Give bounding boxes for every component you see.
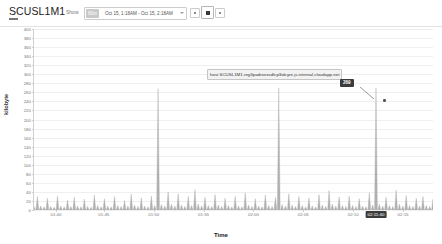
x-axis-tick-mark bbox=[303, 210, 304, 212]
chart-plot-area[interactable]: 0204060801001201401601802002202402602803… bbox=[33, 29, 433, 211]
y-axis-tick-label: 180 bbox=[24, 129, 31, 130]
x-axis-tick-label: 02:05 bbox=[298, 212, 309, 217]
x-axis-tick-label: 01:40 bbox=[50, 212, 61, 217]
y-axis-tick-label: 240 bbox=[24, 101, 31, 102]
time-range-select[interactable]: 60m Oct 15, 1:18AM - Oct 15, 2:18AM bbox=[84, 7, 187, 20]
series-area bbox=[34, 29, 433, 210]
hover-point-marker bbox=[383, 99, 386, 102]
x-axis-tick-mark bbox=[253, 210, 254, 212]
y-axis-tick-label: 0 bbox=[29, 210, 31, 211]
chevron-down-icon bbox=[180, 12, 184, 14]
series-path bbox=[34, 88, 433, 210]
tooltip-value-badge: 269 bbox=[340, 79, 354, 87]
y-axis-tick-label: 360 bbox=[24, 47, 31, 48]
y-axis-tick-label: 200 bbox=[24, 120, 31, 121]
y-axis-tick-label: 400 bbox=[24, 29, 31, 30]
page-title: SCUSL1M1 bbox=[9, 5, 65, 17]
y-axis-tick-label: 380 bbox=[24, 38, 31, 39]
toolbar: SCUSL1M1 Show 60m Oct 15, 1:18AM - Oct 1… bbox=[0, 0, 442, 27]
title-underline bbox=[9, 18, 18, 20]
y-axis-tick-label: 300 bbox=[24, 74, 31, 75]
y-axis-tick-label: 80 bbox=[26, 174, 31, 175]
plus-icon bbox=[219, 12, 221, 14]
x-axis-tick-mark bbox=[154, 210, 155, 212]
y-axis-tick-label: 120 bbox=[24, 156, 31, 157]
x-axis-tick-mark bbox=[353, 210, 354, 212]
series-tooltip: host.SCUSL1M1.reg3padroexsdlcp3idcyre.js… bbox=[207, 69, 342, 80]
x-axis-tick-label: 01:55 bbox=[198, 212, 209, 217]
y-axis-tick-label: 100 bbox=[24, 165, 31, 166]
reset-zoom-button[interactable] bbox=[201, 6, 214, 19]
y-axis-tick-label: 160 bbox=[24, 138, 31, 139]
x-axis-tick-label: 02:15 bbox=[398, 212, 409, 217]
y-axis-tick-label: 140 bbox=[24, 147, 31, 148]
range-text: Oct 15, 1:18AM - Oct 15, 2:18AM bbox=[105, 9, 173, 18]
y-axis-tick-label: 340 bbox=[24, 56, 31, 57]
range-duration-badge: 60m bbox=[86, 9, 99, 18]
y-axis-tick-label: 220 bbox=[24, 110, 31, 111]
y-axis-tick-label: 320 bbox=[24, 65, 31, 66]
y-axis-tick-label: 260 bbox=[24, 92, 31, 93]
y-axis-tick-label: 280 bbox=[24, 83, 31, 84]
y-axis-tick-label: 40 bbox=[26, 192, 31, 193]
tooltip-leader-line bbox=[360, 87, 384, 101]
show-label: Show bbox=[66, 9, 79, 15]
minus-icon bbox=[194, 12, 196, 14]
x-axis-tick-label: 02:00 bbox=[248, 212, 259, 217]
x-axis-label: Time bbox=[0, 232, 442, 238]
x-axis-tick-label: 01:45 bbox=[98, 212, 109, 217]
x-axis-tick-label: 01:50 bbox=[148, 212, 159, 217]
x-axis-tick-mark bbox=[56, 210, 57, 212]
y-axis-tick-label: 60 bbox=[26, 183, 31, 184]
zoom-in-button[interactable] bbox=[215, 8, 225, 18]
y-axis-label-wrap: kilobyte bbox=[4, 29, 14, 210]
x-axis-tick-mark bbox=[403, 210, 404, 212]
x-axis-tick-label: 02:10 bbox=[348, 212, 359, 217]
square-icon bbox=[206, 11, 210, 15]
x-axis-tick-mark bbox=[204, 210, 205, 212]
x-axis-tick-mark bbox=[104, 210, 105, 212]
y-axis-tick-mark bbox=[32, 210, 34, 211]
y-axis-label: kilobyte bbox=[3, 94, 9, 115]
zoom-out-button[interactable] bbox=[190, 8, 200, 18]
y-axis-tick-label: 20 bbox=[26, 201, 31, 202]
x-axis-highlight-chip: 02:11:40 bbox=[366, 211, 387, 218]
